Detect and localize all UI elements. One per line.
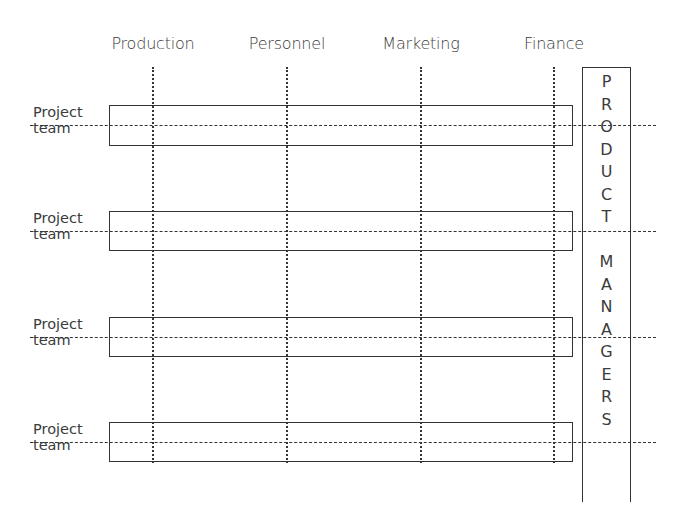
department-header-marketing: Marketing — [382, 34, 459, 53]
product-managers-box: P R O D U C T M A N A G E R S — [582, 67, 631, 502]
pm-letter: A — [583, 274, 630, 297]
label-line-1: Project — [33, 104, 83, 120]
label-line-2: team — [33, 437, 83, 453]
department-header-finance: Finance — [524, 34, 584, 53]
label-line-1: Project — [33, 210, 83, 226]
pm-letter: G — [583, 341, 630, 364]
pm-letter: R — [583, 386, 630, 409]
label-line-2: team — [33, 332, 83, 348]
matrix-diagram: Production Personnel Marketing Finance P… — [0, 0, 693, 515]
pm-letter: M — [583, 251, 630, 274]
project-line-1 — [30, 125, 656, 126]
project-line-2 — [30, 231, 656, 232]
project-team-label-1: Project team — [33, 104, 83, 136]
department-line-production — [152, 67, 154, 463]
project-line-4 — [30, 442, 656, 443]
label-line-2: team — [33, 120, 83, 136]
project-team-label-4: Project team — [33, 421, 83, 453]
pm-letter: D — [583, 139, 630, 162]
department-header-personnel: Personnel — [249, 34, 325, 53]
pm-letter: R — [583, 94, 630, 117]
pm-letter: N — [583, 296, 630, 319]
pm-letter: C — [583, 184, 630, 207]
project-team-label-2: Project team — [33, 210, 83, 242]
department-line-finance — [553, 67, 555, 463]
pm-letter: U — [583, 161, 630, 184]
pm-letter: S — [583, 409, 630, 432]
department-line-personnel — [286, 67, 288, 463]
pm-letter: T — [583, 206, 630, 229]
pm-letter: P — [583, 71, 630, 94]
project-line-3 — [30, 337, 656, 338]
label-line-1: Project — [33, 421, 83, 437]
pm-letter: E — [583, 364, 630, 387]
pm-letter: O — [583, 116, 630, 139]
department-line-marketing — [420, 67, 422, 463]
label-line-2: team — [33, 226, 83, 242]
project-team-label-3: Project team — [33, 316, 83, 348]
department-header-production: Production — [111, 34, 194, 53]
label-line-1: Project — [33, 316, 83, 332]
